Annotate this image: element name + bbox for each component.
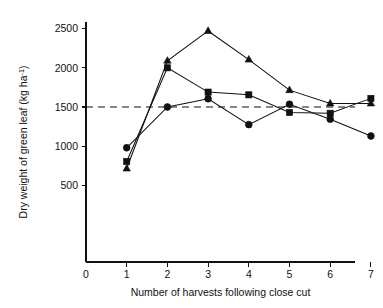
datapoint-square-x1: [124, 158, 130, 164]
x-axis-tick-labels: 01234567: [83, 268, 374, 280]
x-tick-label-1: 1: [124, 268, 130, 280]
x-tick-label-6: 6: [327, 268, 333, 280]
datapoint-triangle-x4: [245, 55, 252, 62]
datapoint-circle-x2: [164, 104, 171, 111]
datapoint-circle-x6: [327, 116, 334, 123]
series-square: [124, 65, 374, 165]
y-axis-title: Dry weight of green leaf (kg ha-1): [17, 66, 29, 219]
datapoint-square-x6: [327, 110, 333, 116]
chart-figure: 5001000150020002500 01234567 Number of h…: [0, 0, 383, 308]
datapoint-circle-x7: [368, 133, 375, 140]
datapoint-square-x5: [286, 109, 292, 115]
datapoint-square-x7: [368, 95, 374, 101]
series-line-triangle: [127, 31, 371, 169]
datapoint-square-x4: [246, 92, 252, 98]
datapoint-triangle-x1: [123, 164, 130, 171]
x-axis-title: Number of harvests following close cut: [131, 286, 311, 298]
axes: [86, 22, 355, 262]
datapoint-triangle-x3: [204, 27, 211, 34]
datapoint-circle-x4: [245, 121, 252, 128]
y-axis-tick-labels: 5001000150020002500: [55, 22, 79, 191]
datapoint-circle-x5: [286, 101, 293, 108]
x-tick-label-7: 7: [368, 268, 374, 280]
y-tick-label-500: 500: [60, 179, 78, 191]
series-triangle: [123, 27, 375, 171]
x-tick-label-5: 5: [287, 268, 293, 280]
x-tick-label-4: 4: [246, 268, 252, 280]
series-line-square: [127, 68, 371, 162]
x-tick-label-2: 2: [164, 268, 170, 280]
y-tick-label-2000: 2000: [55, 62, 79, 74]
x-tick-label-0: 0: [83, 268, 89, 280]
datapoint-circle-x3: [205, 95, 212, 102]
datapoint-square-x2: [164, 65, 170, 71]
y-tick-label-1500: 1500: [55, 101, 79, 113]
datapoint-triangle-x5: [286, 86, 293, 93]
datapoint-triangle-x2: [164, 57, 171, 64]
y-tick-label-2500: 2500: [55, 22, 79, 34]
datapoint-square-x3: [205, 89, 211, 95]
data-series-group: [123, 27, 375, 171]
line-chart: 5001000150020002500 01234567 Number of h…: [0, 0, 383, 308]
y-tick-label-1000: 1000: [55, 140, 79, 152]
datapoint-circle-x1: [123, 144, 130, 151]
x-tick-label-3: 3: [205, 268, 211, 280]
